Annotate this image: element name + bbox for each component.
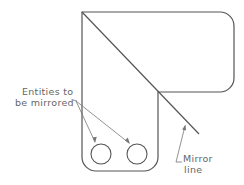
mirror-line [82, 12, 199, 134]
leader-line-left [76, 101, 95, 142]
leader-line-right [76, 101, 129, 143]
entities-label-line2: be mirrored [15, 97, 74, 108]
arrowhead-left-icon [93, 137, 97, 143]
mirror-label-line2: line [184, 164, 202, 175]
entity-circle-right [127, 144, 147, 164]
arrowhead-right-icon [125, 138, 130, 145]
entities-label-line1: Entities to [22, 86, 73, 97]
arrowhead-mirror-icon [182, 125, 186, 131]
entity-circle-left [91, 144, 111, 164]
mirror-label-line1: Mirror [183, 153, 213, 164]
